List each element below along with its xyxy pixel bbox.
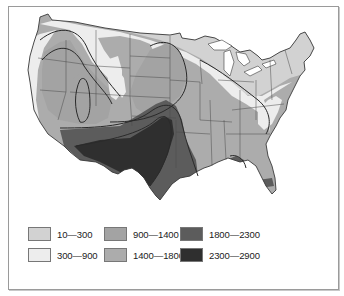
legend-swatch — [104, 227, 127, 241]
legend-item-300-900: 300—900 — [28, 247, 98, 263]
legend-item-10-300: 10—300 — [28, 226, 92, 242]
legend-item-1400-1800: 1400—1800 — [104, 247, 184, 263]
legend-label: 300—900 — [57, 250, 98, 261]
map-legend: 10—300 300—900 900—1400 1400—1800 1800—2… — [28, 226, 268, 266]
legend-label: 1800—2300 — [209, 229, 260, 240]
legend-label: 900—1400 — [133, 229, 179, 240]
legend-label: 10—300 — [57, 229, 92, 240]
legend-swatch — [104, 248, 127, 262]
legend-item-2300-2900: 2300—2900 — [180, 247, 260, 263]
legend-item-900-1400: 900—1400 — [104, 226, 179, 242]
legend-label: 2300—2900 — [209, 250, 260, 261]
legend-item-1800-2300: 1800—2300 — [180, 226, 260, 242]
legend-swatch — [180, 227, 203, 241]
legend-swatch — [180, 248, 203, 262]
legend-label: 1400—1800 — [133, 250, 184, 261]
legend-swatch — [28, 248, 51, 262]
legend-swatch — [28, 227, 51, 241]
